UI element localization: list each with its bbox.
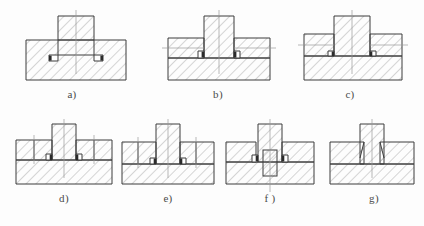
recess-right-f (282, 155, 288, 162)
key-left-b (202, 52, 204, 58)
subfigure-f-label: f ) (248, 192, 292, 204)
subfigure-g (324, 118, 420, 188)
key-left-d (50, 155, 52, 161)
subfigure-a (22, 8, 130, 86)
side-block-right-g (380, 142, 414, 164)
recess-left-d (46, 154, 52, 160)
recess-left-c (328, 51, 334, 56)
subfigure-e (118, 118, 218, 188)
key-right-a (100, 56, 103, 61)
key-right-d (76, 155, 78, 161)
key-right-e (180, 159, 182, 165)
subfigure-g-label: g) (352, 192, 396, 204)
recess-right-b (234, 51, 240, 58)
base-block-c (304, 56, 402, 80)
subfigure-d-label: d) (42, 192, 86, 204)
subfigure-e-label: e) (146, 192, 190, 204)
subfigure-a-label: a) (50, 88, 94, 100)
key-left-c (332, 52, 334, 57)
subfigure-c-label: c) (328, 88, 372, 100)
recess-right-e (180, 158, 186, 164)
subfigure-b (158, 8, 280, 86)
recess-right-a (94, 55, 103, 61)
key-right-f (282, 156, 284, 162)
key-left-e (154, 159, 156, 165)
recess-right-c (370, 51, 376, 56)
key-left-f (256, 156, 258, 162)
key-right-b (234, 52, 236, 58)
side-block-left-g (330, 142, 364, 164)
recess-left-e (150, 158, 156, 164)
key-left-a (49, 56, 52, 61)
recess-left-b (198, 51, 204, 58)
recess-left-a (49, 55, 58, 61)
figure-sheet: a) (0, 0, 424, 226)
subfigure-c (292, 8, 412, 86)
recess-left-f (252, 155, 258, 162)
key-right-c (370, 52, 372, 57)
subfigure-d (12, 118, 116, 188)
recess-right-d (76, 154, 82, 160)
subfigure-f (222, 118, 318, 196)
subfigure-b-label: b) (196, 88, 240, 100)
